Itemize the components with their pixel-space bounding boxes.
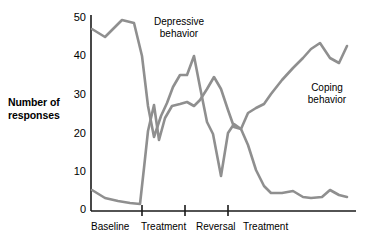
series-line-coping-behavior — [92, 43, 347, 204]
series-line-depressive-behavior — [92, 20, 347, 198]
chart-figure: Number of responses 50 40 30 20 10 0 Dep… — [0, 0, 365, 239]
chart-plot-area — [0, 0, 365, 239]
